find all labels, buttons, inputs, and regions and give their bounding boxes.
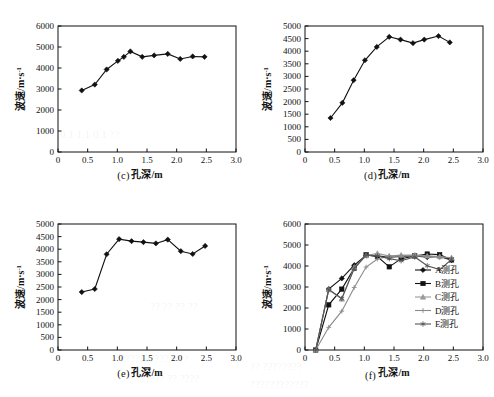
x-tick-label: 2.5	[201, 155, 213, 165]
y-tick-label: 0	[50, 147, 55, 157]
panel-caption-d: (d)	[247, 170, 494, 181]
x-tick-label: 3.0	[477, 353, 489, 363]
y-axis-title: 波速/m·s-1	[261, 67, 273, 111]
data-series	[79, 49, 207, 93]
series-line	[316, 255, 452, 350]
y-tick-label: 1500	[283, 109, 302, 119]
data-point-marker	[92, 286, 97, 291]
data-point-marker	[140, 54, 145, 59]
chart-panel-e: 0500100015002000250030003500400045005000…	[0, 198, 247, 396]
y-tick-label: 2000	[36, 295, 55, 305]
data-point-marker	[79, 289, 84, 294]
legend-entry[interactable]: D测孔	[415, 306, 460, 316]
y-tick-label: 5000	[283, 21, 302, 31]
x-tick-label: 1.0	[359, 353, 371, 363]
data-point-marker	[352, 285, 357, 290]
y-tick-label: 3000	[283, 71, 302, 81]
data-point-marker	[79, 88, 84, 93]
legend-entry[interactable]: C测孔	[415, 292, 459, 302]
y-tick-label: 2000	[283, 303, 302, 313]
x-tick-label: 0.5	[329, 155, 341, 165]
data-series	[328, 33, 452, 120]
x-tick-label: 0.5	[329, 353, 341, 363]
y-tick-label: 3000	[36, 84, 55, 94]
y-tick-label: 3000	[36, 269, 55, 279]
y-tick-label: 500	[41, 332, 55, 342]
y-tick-label: 3500	[283, 59, 302, 69]
x-tick-label: 2.0	[418, 155, 430, 165]
y-axis-title: 波速/m·s-1	[14, 67, 26, 111]
x-tick-label: 1.5	[141, 353, 153, 363]
y-tick-label: 0	[297, 147, 302, 157]
data-point-marker	[202, 54, 207, 59]
chart-panel-f: 010002000300040005000600000.51.01.52.02.…	[247, 198, 494, 396]
x-tick-label: 0.5	[82, 155, 94, 165]
plot-svg-d: 0500100015002000250030003500400045005000…	[247, 0, 494, 198]
data-point-marker	[153, 241, 158, 246]
series-line	[316, 253, 452, 350]
x-tick-label: 2.5	[448, 353, 460, 363]
x-tick-label: 0	[56, 353, 61, 363]
x-tick-label: 1.0	[112, 353, 124, 363]
data-point-marker	[398, 37, 403, 42]
data-point-marker	[387, 265, 391, 269]
x-tick-label: 0.5	[82, 353, 94, 363]
x-tick-label: 3.0	[477, 155, 489, 165]
y-tick-label: 5000	[36, 219, 55, 229]
plot-svg-c: 010002000300040005000600000.51.01.52.02.…	[0, 0, 247, 198]
y-tick-label: 6000	[283, 219, 302, 229]
legend-entry[interactable]: B测孔	[415, 279, 459, 289]
x-tick-label: 2.0	[171, 353, 183, 363]
legend-label: A测孔	[435, 265, 460, 275]
x-tick-label: 0	[56, 155, 61, 165]
data-point-marker	[327, 303, 331, 307]
y-tick-label: 4000	[283, 261, 302, 271]
data-series	[313, 254, 454, 353]
y-tick-label: 4000	[36, 244, 55, 254]
data-point-marker	[165, 51, 170, 56]
y-tick-label: 4000	[283, 46, 302, 56]
data-series	[313, 251, 454, 352]
x-tick-label: 1.0	[112, 155, 124, 165]
panel-caption-e: (e)	[0, 368, 247, 379]
series-line	[331, 36, 450, 118]
y-tick-label: 4500	[36, 232, 55, 242]
data-point-marker	[351, 78, 356, 83]
x-tick-label: 2.0	[418, 353, 430, 363]
data-point-marker	[152, 53, 157, 58]
y-tick-label: 1000	[36, 320, 55, 330]
x-tick-label: 2.5	[448, 155, 460, 165]
data-point-marker	[129, 239, 134, 244]
y-tick-label: 2000	[283, 97, 302, 107]
legend-label: E测孔	[435, 319, 459, 329]
y-tick-label: 6000	[36, 21, 55, 31]
y-tick-label: 4000	[36, 63, 55, 73]
legend-label: D测孔	[435, 306, 460, 316]
plot-svg-f: 010002000300040005000600000.51.01.52.02.…	[247, 198, 494, 396]
y-tick-label: 4500	[283, 34, 302, 44]
x-tick-label: 2.5	[201, 353, 213, 363]
legend-entry[interactable]: E测孔	[415, 319, 459, 329]
chart-panel-c: 010002000300040005000600000.51.01.52.02.…	[0, 0, 247, 198]
x-tick-label: 1.5	[388, 353, 400, 363]
data-point-marker	[422, 37, 427, 42]
data-point-marker	[340, 287, 344, 291]
series-line	[316, 256, 452, 350]
x-tick-label: 1.5	[388, 155, 400, 165]
chart-panel-d: 0500100015002000250030003500400045005000…	[247, 0, 494, 198]
panel-caption-c: (c)	[0, 170, 247, 181]
series-line	[316, 254, 452, 350]
panel-caption-f: (f)	[247, 370, 494, 381]
data-point-marker	[141, 240, 146, 245]
legend-entry[interactable]: A测孔	[415, 265, 460, 275]
data-point-marker	[436, 33, 441, 38]
y-tick-label: 1000	[283, 324, 302, 334]
x-tick-label: 2.0	[171, 155, 183, 165]
y-tick-label: 2500	[36, 282, 55, 292]
data-point-marker	[178, 56, 183, 61]
y-tick-label: 500	[288, 134, 302, 144]
plot-svg-e: 0500100015002000250030003500400045005000…	[0, 198, 247, 396]
y-tick-label: 0	[297, 345, 302, 355]
data-series	[79, 237, 208, 295]
y-tick-label: 1000	[36, 126, 55, 136]
